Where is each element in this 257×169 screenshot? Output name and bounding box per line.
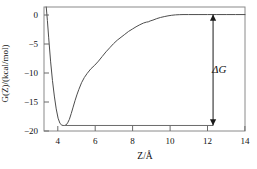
x-tick-label-6: 6: [93, 137, 98, 146]
x-axis-title: Z/Å: [137, 152, 152, 162]
x-axis-ticks: [58, 126, 245, 131]
delta-g-arrowhead-bottom: [210, 119, 216, 125]
y-tick-label-minus15: −15: [13, 98, 38, 107]
x-tick-label-4: 4: [56, 137, 61, 146]
y-axis-title: G(Z)/(kcal/mol): [1, 45, 10, 103]
delta-g-label: ΔG: [212, 64, 226, 75]
y-tick-label-minus10: −10: [13, 69, 38, 78]
x-tick-label-10: 10: [166, 137, 175, 146]
y-tick-label-minus5: −5: [16, 40, 38, 49]
figure-container: 0 −5 −10 −15 −20 4 6 8 10 12 14 Z/Å G(Z)…: [0, 0, 257, 169]
y-tick-label-minus20: −20: [13, 127, 38, 136]
x-tick-label-12: 12: [203, 137, 212, 146]
x-tick-label-14: 14: [240, 137, 249, 146]
delta-g-arrowhead-top: [210, 15, 216, 21]
y-tick-label-0: 0: [16, 11, 38, 20]
x-tick-label-8: 8: [130, 137, 135, 146]
plot-canvas: [0, 0, 257, 169]
